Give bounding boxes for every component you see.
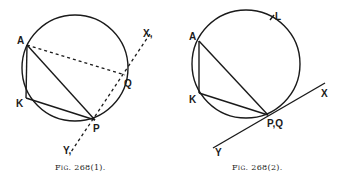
fig1-dashed-chord-aq: [27, 45, 125, 75]
fig1-label-p: P: [93, 123, 100, 134]
figure-2: A K P,Q L X Y Fig. 268(2).: [189, 10, 328, 172]
fig2-label-l: L: [275, 11, 281, 22]
fig1-label-y: Y,: [63, 145, 72, 156]
fig1-caption: Fig. 268(1).: [55, 163, 106, 172]
fig2-label-y: Y: [215, 147, 222, 158]
fig2-label-x: X: [321, 88, 328, 99]
fig1-label-a: A: [17, 35, 24, 46]
fig1-label-k: K: [16, 98, 24, 109]
fig1-dashed-line-xy: [71, 34, 150, 152]
fig2-label-k: K: [189, 94, 197, 105]
fig1-circle: [22, 15, 128, 121]
geometry-diagram: A K P Q X, Y, Fig. 268(1). A K P,Q L X Y…: [0, 0, 341, 180]
fig2-label-a: A: [189, 31, 196, 42]
fig2-circle: [192, 10, 300, 118]
fig2-caption: Fig. 268(2).: [232, 163, 283, 172]
fig2-label-pq: P,Q: [267, 118, 283, 129]
fig1-label-x: X,: [143, 28, 153, 39]
fig1-label-q: Q: [124, 78, 132, 89]
figure-1: A K P Q X, Y, Fig. 268(1).: [16, 15, 153, 172]
fig1-chord-ak: [26, 45, 27, 98]
